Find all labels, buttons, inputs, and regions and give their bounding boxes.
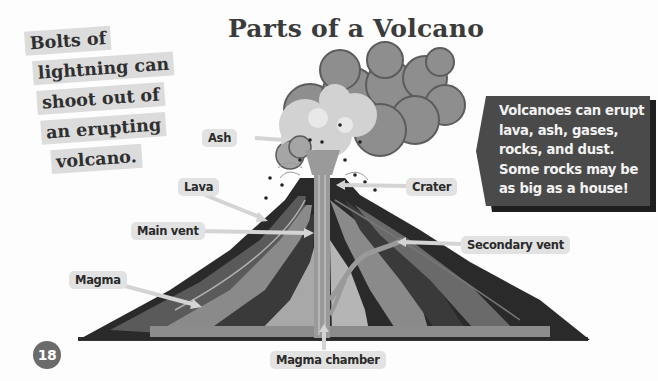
label-magma: Magma	[69, 271, 127, 289]
callout-line: as big as a house!	[499, 179, 654, 199]
callout-line: Some rocks may be	[499, 160, 654, 180]
fact-line: Bolts of	[24, 26, 112, 56]
callout-line: lava, ash, gases,	[499, 121, 654, 141]
callout-line: Volcanoes can erupt	[499, 101, 654, 121]
info-callout: Volcanoes can erupt lava, ash, gases, ro…	[486, 96, 654, 206]
label-ash: Ash	[202, 129, 237, 147]
label-lava: Lava	[178, 178, 219, 196]
label-magma-chamber: Magma chamber	[270, 351, 386, 369]
label-crater: Crater	[406, 178, 457, 196]
page-title: Parts of a Volcano	[228, 14, 484, 43]
label-main-vent: Main vent	[131, 222, 205, 240]
callout-text: Volcanoes can erupt lava, ash, gases, ro…	[499, 101, 654, 199]
fact-line: an erupting	[40, 112, 167, 145]
fact-line: shoot out of	[36, 82, 165, 115]
fact-box: Bolts of lightning can shoot out of an e…	[20, 21, 182, 181]
callout-line: rocks, and dust.	[499, 140, 654, 160]
label-secondary-vent: Secondary vent	[461, 236, 570, 254]
fact-line: volcano.	[50, 144, 142, 174]
fact-line: lightning can	[32, 51, 175, 85]
page-number-badge: 18	[33, 341, 61, 369]
